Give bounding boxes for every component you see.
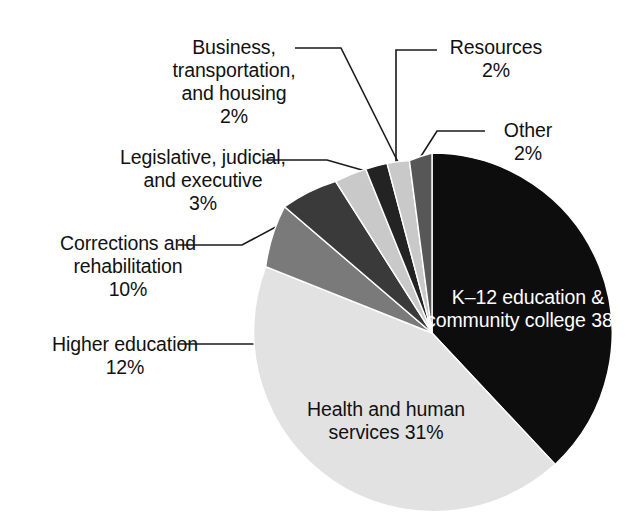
pie-label-resources: Resources 2% [432, 36, 560, 82]
pie-label-k12-education: K–12 education & community college 38% [424, 286, 632, 333]
pie-label-health-percent: 31% [405, 421, 444, 443]
pie-label-corrections-line1: Corrections and [60, 232, 196, 254]
pie-label-k12-line1: K–12 education & [452, 286, 604, 308]
pie-label-corrections-line2: rehabilitation [73, 255, 182, 277]
pie-label-legislative-line1: Legislative, judicial, [120, 146, 286, 168]
pie-label-legislative-judicial-executive: Legislative, judicial, and executive 3% [78, 146, 328, 215]
pie-label-other-line1: Other [504, 119, 552, 141]
pie-label-health-line1: Health and human [307, 398, 465, 420]
pie-label-health-and-human-services: Health and human services 31% [288, 398, 484, 445]
pie-label-business-line1: Business, [192, 36, 276, 58]
pie-label-legislative-percent: 3% [78, 192, 328, 215]
pie-label-corrections-and-rehabilitation: Corrections and rehabilitation 10% [32, 232, 224, 301]
pie-label-business-line3: and housing [181, 82, 286, 104]
pie-label-business-transportation-housing: Business, transportation, and housing 2% [150, 36, 318, 128]
pie-label-business-percent: 2% [150, 105, 318, 128]
pie-label-corrections-percent: 10% [32, 278, 224, 301]
pie-label-higher-percent: 12% [22, 356, 228, 379]
pie-label-other: Other 2% [480, 119, 576, 165]
pie-label-k12-percent: 38% [591, 309, 630, 331]
pie-chart: Business, transportation, and housing 2%… [0, 0, 644, 532]
pie-label-resources-percent: 2% [432, 59, 560, 82]
pie-label-higher-line1: Higher education [52, 333, 198, 355]
pie-label-business-line2: transportation, [172, 59, 295, 81]
pie-label-resources-line1: Resources [450, 36, 542, 58]
pie-label-k12-line2: community college [426, 309, 586, 331]
leader-line-resources [396, 50, 437, 166]
pie-label-health-line2: services [329, 421, 400, 443]
pie-label-other-percent: 2% [480, 142, 576, 165]
pie-label-higher-education: Higher education 12% [22, 333, 228, 379]
pie-label-legislative-line2: and executive [143, 169, 262, 191]
